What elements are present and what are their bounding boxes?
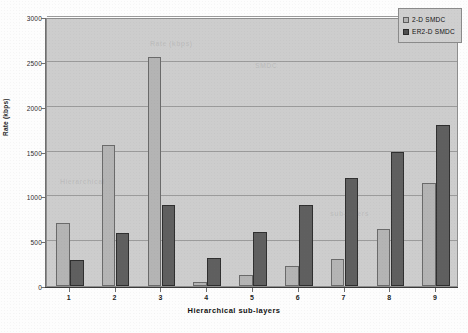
bar [436,125,450,286]
y-axis-tick-mark [41,108,45,109]
bar-group [47,19,93,286]
plot-area [46,18,458,287]
x-axis-tick-label: 6 [296,294,300,301]
y-axis-ticks: 050010001500200025003000 [0,18,42,287]
bar [345,178,359,286]
bar [193,282,207,286]
legend-item-1: ER2-D SMDC [403,26,455,37]
x-axis-tick-mark [344,288,345,292]
bar [285,266,299,286]
bar [148,57,162,286]
bar [207,258,221,286]
bar [239,275,253,286]
legend-swatch-icon [403,29,409,35]
bar-group [184,19,230,286]
legend-swatch-icon [403,17,409,23]
bar [299,205,313,286]
gridline [47,16,457,17]
bar [56,223,70,286]
y-axis-tick-mark [41,242,45,243]
bar [422,183,436,286]
y-axis-tick-mark [41,63,45,64]
x-axis-tick-label: 3 [158,294,162,301]
y-axis-tick-label: 3000 [2,15,42,22]
legend-item-0: 2-D SMDC [403,14,455,25]
bar-group [367,19,413,286]
x-axis-tick-label: 7 [342,294,346,301]
legend-label: 2-D SMDC [412,16,445,23]
x-axis-tick-mark [389,288,390,292]
scan-ghost-text: sub-layers [330,210,369,217]
y-axis-line [45,18,46,288]
x-axis-tick-mark [69,288,70,292]
x-axis-tick-label: 5 [250,294,254,301]
x-axis-tick-label: 4 [204,294,208,301]
bar-group [139,19,185,286]
bar-group [93,19,139,286]
chart-page: 050010001500200025003000 Rate (kbps) 123… [0,0,468,333]
plot-inner [47,19,457,286]
x-axis-tick-label: 1 [67,294,71,301]
x-axis-ticks: 123456789 [46,288,458,308]
bar-group [413,19,459,286]
bar [116,233,130,286]
x-axis-tick-label: 2 [113,294,117,301]
x-axis-tick-mark [115,288,116,292]
x-axis-tick-mark [160,288,161,292]
y-axis-tick-label: 1500 [2,149,42,156]
y-axis-tick-label: 1000 [2,194,42,201]
x-axis-tick-mark [298,288,299,292]
x-axis-tick-mark [435,288,436,292]
y-axis-tick-label: 2500 [2,59,42,66]
y-axis-tick-mark [41,153,45,154]
x-axis-tick-mark [252,288,253,292]
bar [102,145,116,286]
bar [331,259,345,286]
legend-label: ER2-D SMDC [412,28,455,35]
chart-legend: 2-D SMDC ER2-D SMDC [398,8,462,43]
y-axis-tick-label: 500 [2,239,42,246]
y-axis-title: Rate (kbps) [2,98,9,136]
y-axis-tick-label: 0 [2,284,42,291]
y-axis-tick-mark [41,18,45,19]
x-axis-tick-mark [206,288,207,292]
y-axis-tick-mark [41,197,45,198]
scan-ghost-text: Rate (kbps) [150,40,193,47]
bar-group [230,19,276,286]
x-axis-title: Hierarchical sub-layers [0,306,468,315]
x-axis-tick-label: 9 [433,294,437,301]
bar [253,232,267,286]
bar [162,205,176,286]
bar-group [322,19,368,286]
scan-ghost-text: Hierarchical [60,178,105,185]
scan-ghost-text: SMDC [255,62,277,69]
bar [391,152,405,287]
x-axis-tick-label: 8 [387,294,391,301]
bar [70,260,84,286]
bar [377,229,391,286]
bar-group [276,19,322,286]
